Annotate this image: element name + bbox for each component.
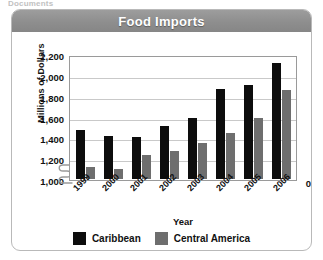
bar-group bbox=[132, 58, 151, 179]
y-axis-tick-label: 1,800 bbox=[40, 92, 64, 103]
x-axis-title: Year bbox=[69, 216, 297, 227]
bar-group bbox=[160, 58, 179, 179]
y-axis-zero-label: 0 bbox=[306, 178, 311, 189]
bar[interactable] bbox=[272, 63, 281, 179]
chart-card-header: Food Imports bbox=[12, 10, 311, 32]
legend-item[interactable]: Caribbean bbox=[73, 232, 141, 245]
legend-label: Caribbean bbox=[92, 233, 141, 244]
bar-group bbox=[188, 58, 207, 179]
bar[interactable] bbox=[104, 136, 113, 179]
chart-screenshot: Documents Food Imports Millions of Dolla… bbox=[0, 0, 323, 260]
bar[interactable] bbox=[76, 130, 85, 179]
bar[interactable] bbox=[216, 89, 225, 179]
bar[interactable] bbox=[282, 90, 291, 179]
bar-group bbox=[76, 58, 95, 179]
y-axis-tick-labels: 2,2002,0001,8001,6001,4001,2001,000 bbox=[28, 56, 64, 181]
legend-swatch-central-america bbox=[155, 232, 168, 245]
bar[interactable] bbox=[244, 85, 253, 179]
plot-area bbox=[69, 56, 297, 181]
bar-groups bbox=[71, 58, 295, 179]
bar[interactable] bbox=[188, 118, 197, 180]
chart-legend: CaribbeanCentral America bbox=[12, 232, 311, 245]
bar[interactable] bbox=[132, 137, 141, 179]
page-top-fragment: Documents bbox=[8, 0, 128, 8]
y-axis-tick-label: 1,600 bbox=[40, 113, 64, 124]
chart-card: Food Imports Millions of Dollars 2,2002,… bbox=[11, 9, 312, 251]
bar-group bbox=[104, 58, 123, 179]
y-axis-tick-label: 2,200 bbox=[40, 51, 64, 62]
legend-item[interactable]: Central America bbox=[155, 232, 250, 245]
bar-group bbox=[216, 58, 235, 179]
bar[interactable] bbox=[160, 126, 169, 179]
bar[interactable] bbox=[254, 118, 263, 180]
y-axis-tick-label: 1,400 bbox=[40, 134, 64, 145]
bar-group bbox=[272, 58, 291, 179]
legend-swatch-caribbean bbox=[73, 232, 86, 245]
y-axis-tick-label: 2,000 bbox=[40, 71, 64, 82]
chart-title: Food Imports bbox=[118, 14, 205, 29]
chart-card-body: Millions of Dollars 2,2002,0001,8001,600… bbox=[12, 32, 311, 251]
x-axis-tick-labels: 19992000200120022003200420052006 bbox=[69, 182, 297, 216]
legend-label: Central America bbox=[174, 233, 250, 244]
bar-group bbox=[244, 58, 263, 179]
